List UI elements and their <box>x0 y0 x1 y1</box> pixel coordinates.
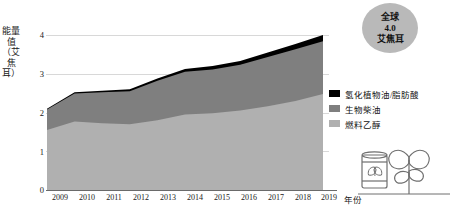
x-tick-label-2010: 2010 <box>74 193 100 202</box>
y-tick-label-0: 0 <box>30 185 44 195</box>
plant-leaf-icon <box>389 150 429 194</box>
y-tick-label-2: 2 <box>30 108 44 118</box>
global-total-callout: 全球 4.0 艾焦耳 <box>362 3 418 53</box>
x-tick-label-2018: 2018 <box>290 193 316 202</box>
legend-item-hvo[interactable]: 氢化植物油/脂肪酸 <box>329 86 419 101</box>
plot-area <box>46 30 323 190</box>
callout-line-1: 全球 <box>381 12 399 23</box>
chart-legend: 氢化植物油/脂肪酸 生物柴油 燃料乙醇 <box>329 86 419 131</box>
x-tick-label-2014: 2014 <box>182 193 208 202</box>
x-tick-label-2013: 2013 <box>155 193 181 202</box>
x-tick-label-2015: 2015 <box>209 193 235 202</box>
y-tick-label-3: 3 <box>30 69 44 79</box>
legend-label-ethanol: 燃料乙醇 <box>345 118 381 130</box>
x-tick-label-2011: 2011 <box>101 193 127 202</box>
legend-swatch-ethanol <box>329 120 340 127</box>
callout-line-3: 艾焦耳 <box>377 34 404 45</box>
legend-item-ethanol[interactable]: 燃料乙醇 <box>329 116 419 131</box>
stacked-area-svg <box>46 30 329 192</box>
y-tick-label-1: 1 <box>30 147 44 157</box>
x-tick-label-2017: 2017 <box>263 193 289 202</box>
legend-swatch-biodiesel <box>329 105 340 112</box>
x-tick-label-2019: 2019 <box>316 193 342 202</box>
callout-line-2: 4.0 <box>384 23 395 34</box>
legend-label-biodiesel: 生物柴油 <box>345 103 381 115</box>
x-tick-label-2016: 2016 <box>236 193 262 202</box>
x-tick-label-2012: 2012 <box>128 193 154 202</box>
y-tick-label-4: 4 <box>30 30 44 40</box>
decorative-illustration <box>358 143 454 205</box>
chart-page: 能量值（艾焦耳） 4 3 2 1 0 2009 2010 2011 2012 2… <box>0 0 455 224</box>
legend-label-hvo: 氢化植物油/脂肪酸 <box>345 88 419 100</box>
x-tick-label-2009: 2009 <box>47 193 73 202</box>
legend-item-biodiesel[interactable]: 生物柴油 <box>329 101 419 116</box>
y-axis-title: 能量值（艾焦耳） <box>2 26 20 79</box>
oil-barrel-leaf-icon <box>362 152 387 188</box>
legend-swatch-hvo <box>329 90 340 97</box>
